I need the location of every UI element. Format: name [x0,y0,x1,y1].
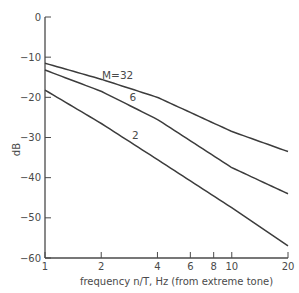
series-annotation: 6 [129,91,136,103]
series-line-m-6 [45,70,288,194]
y-ticks: 0−10−20−30−40−50−60 [20,12,51,264]
y-tick-label: 0 [35,12,41,23]
x-tick-label: 20 [282,261,295,272]
y-tick-label: −10 [20,52,41,63]
annotations: M=3262 [102,69,139,142]
series-annotation: M=32 [102,69,133,81]
x-tick-label: 8 [210,261,216,272]
y-tick-label: −50 [20,212,41,223]
x-tick-label: 1 [42,261,48,272]
y-tick-label: −30 [20,132,41,143]
series-line-m-32 [45,63,288,151]
y-tick-label: −40 [20,172,41,183]
x-tick-label: 4 [154,261,160,272]
series-annotation: 2 [132,129,139,141]
y-axis-label: dB [11,143,22,156]
series-line-m-2 [45,90,288,246]
x-ticks: 124681020 [42,252,295,272]
series-lines [45,63,288,246]
x-axis-label: frequency n/T, Hz (from extreme tone) [80,276,273,287]
chart: 0−10−20−30−40−50−60 124681020 M=3262 fre… [0,0,299,293]
y-tick-label: −20 [20,92,41,103]
x-tick-label: 10 [225,261,238,272]
x-tick-label: 2 [98,261,104,272]
x-tick-label: 6 [187,261,193,272]
y-tick-label: −60 [20,253,41,264]
